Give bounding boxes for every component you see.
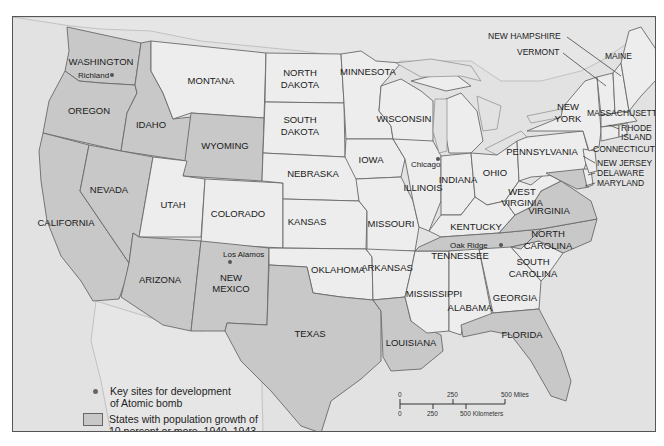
site-los-alamos-dot bbox=[228, 260, 232, 264]
site-oak-ridge-dot bbox=[499, 243, 503, 247]
map-frame: Richland Los Alamos Chicago Oak Ridge WA… bbox=[12, 16, 656, 432]
legend: Key sites for development of Atomic bomb… bbox=[83, 385, 313, 432]
site-dot-icon bbox=[93, 389, 98, 394]
label-tennessee: TENNESSEE bbox=[431, 250, 489, 261]
label-indiana: INDIANA bbox=[439, 174, 478, 185]
label-louisiana: LOUISIANA bbox=[386, 337, 437, 348]
label-missouri: MISSOURI bbox=[368, 218, 415, 229]
scale-km-250: 250 bbox=[427, 410, 438, 417]
site-label-chicago: Chicago bbox=[411, 160, 441, 169]
label-wisconsin: WISCONSIN bbox=[377, 113, 432, 124]
site-label-oak-ridge: Oak Ridge bbox=[450, 241, 488, 250]
label-south-carolina-1: SOUTH bbox=[516, 256, 549, 267]
label-south-dakota-1: SOUTH bbox=[283, 114, 316, 125]
legend-text-growth: States with population growth of 10 perc… bbox=[109, 413, 258, 432]
label-kentucky: KENTUCKY bbox=[450, 221, 502, 232]
legend-text-sites: Key sites for development of Atomic bomb bbox=[110, 385, 231, 409]
label-maine: MAINE bbox=[605, 51, 632, 61]
label-north-carolina-1: NORTH bbox=[531, 228, 565, 239]
label-iowa: IOWA bbox=[359, 154, 385, 165]
site-richland-dot bbox=[110, 73, 114, 77]
label-illinois: ILLINOIS bbox=[403, 182, 442, 193]
label-florida: FLORIDA bbox=[501, 329, 543, 340]
label-pennsylvania: PENNSYLVANIA bbox=[506, 146, 578, 157]
scale-km-0: 0 bbox=[398, 410, 402, 417]
us-map: Richland Los Alamos Chicago Oak Ridge WA… bbox=[13, 17, 656, 432]
label-alabama: ALABAMA bbox=[448, 302, 494, 313]
scale-miles-250: 250 bbox=[447, 391, 458, 398]
lake-huron bbox=[477, 96, 501, 131]
label-connecticut: CONNECTICUT bbox=[593, 144, 655, 154]
label-nebraska: NEBRASKA bbox=[287, 168, 339, 179]
label-south-dakota-2: DAKOTA bbox=[281, 126, 320, 137]
label-massachusetts: MASSACHUSETTS bbox=[587, 108, 656, 118]
label-mississippi: MISSISSIPPI bbox=[406, 288, 463, 299]
label-vermont: VERMONT bbox=[517, 47, 560, 57]
label-new-jersey: NEW JERSEY bbox=[597, 158, 653, 168]
label-oregon: OREGON bbox=[68, 105, 110, 116]
label-south-carolina-2: CAROLINA bbox=[509, 268, 558, 279]
label-nevada: NEVADA bbox=[90, 184, 129, 195]
label-colorado: COLORADO bbox=[211, 208, 265, 219]
state-north-dakota[interactable] bbox=[265, 53, 344, 103]
label-maryland: MARYLAND bbox=[597, 178, 644, 188]
label-washington: WASHINGTON bbox=[69, 56, 134, 67]
state-florida[interactable] bbox=[461, 309, 571, 401]
legend-item-growth: States with population growth of 10 perc… bbox=[83, 413, 313, 432]
label-north-dakota-2: DAKOTA bbox=[281, 79, 320, 90]
scale-km-500: 500 Kilometers bbox=[460, 410, 504, 417]
scale-bar: 0 250 500 Miles 0 250 500 Kilometers bbox=[398, 391, 530, 417]
label-new-mexico-2: MEXICO bbox=[212, 283, 249, 294]
label-arizona: ARIZONA bbox=[139, 274, 182, 285]
label-montana: MONTANA bbox=[188, 75, 235, 86]
label-utah: UTAH bbox=[160, 199, 185, 210]
site-label-los-alamos: Los Alamos bbox=[223, 250, 264, 259]
scale-miles-0: 0 bbox=[398, 391, 402, 398]
site-label-richland: Richland bbox=[78, 71, 109, 80]
label-new-york-1: NEW bbox=[557, 101, 579, 112]
label-west-virginia-2: VIRGINIA bbox=[501, 197, 543, 208]
label-georgia: GEORGIA bbox=[493, 292, 538, 303]
label-ohio: OHIO bbox=[483, 167, 507, 178]
label-idaho: IDAHO bbox=[136, 119, 166, 130]
shaded-swatch-icon bbox=[83, 413, 103, 426]
label-west-virginia-1: WEST bbox=[508, 186, 536, 197]
label-north-dakota-1: NORTH bbox=[283, 67, 317, 78]
label-oklahoma: OKLAHOMA bbox=[311, 264, 366, 275]
label-minnesota: MINNESOTA bbox=[340, 66, 396, 77]
label-texas: TEXAS bbox=[294, 328, 325, 339]
state-connecticut[interactable] bbox=[601, 125, 619, 141]
legend-item-sites: Key sites for development of Atomic bomb bbox=[83, 385, 313, 409]
label-new-mexico-1: NEW bbox=[220, 272, 242, 283]
scale-miles-500: 500 Miles bbox=[501, 391, 530, 398]
label-north-carolina-2: CAROLINA bbox=[524, 240, 573, 251]
label-delaware: DELAWARE bbox=[597, 168, 644, 178]
label-kansas: KANSAS bbox=[288, 216, 327, 227]
label-california: CALIFORNIA bbox=[37, 217, 95, 228]
label-arkansas: ARKANSAS bbox=[361, 262, 413, 273]
label-rhode-island-2: ISLAND bbox=[621, 132, 652, 142]
label-wyoming: WYOMING bbox=[201, 140, 249, 151]
label-new-york-2: YORK bbox=[555, 113, 583, 124]
label-new-hampshire: NEW HAMPSHIRE bbox=[488, 31, 561, 41]
